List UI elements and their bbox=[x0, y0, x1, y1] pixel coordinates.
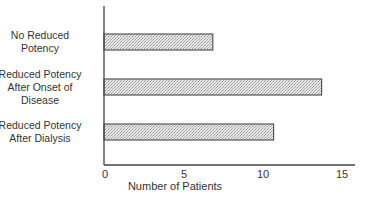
bar-3 bbox=[104, 124, 274, 140]
bar-2 bbox=[104, 79, 322, 95]
category-label: No ReducedPotency bbox=[0, 29, 95, 55]
category-label: Reduced PotencyAfter Dialysis bbox=[0, 119, 95, 145]
x-tick-label: 10 bbox=[257, 168, 269, 180]
bar-1 bbox=[104, 34, 213, 50]
bar-chart: No ReducedPotencyReduced PotencyAfter On… bbox=[0, 0, 372, 200]
bars-group bbox=[104, 34, 322, 140]
x-axis-title: Number of Patients bbox=[128, 180, 222, 192]
category-label: Reduced PotencyAfter Onset ofDisease bbox=[0, 68, 95, 107]
x-tick-label: 0 bbox=[102, 168, 108, 180]
x-tick-label: 5 bbox=[181, 168, 187, 180]
x-tick-label: 15 bbox=[336, 168, 348, 180]
